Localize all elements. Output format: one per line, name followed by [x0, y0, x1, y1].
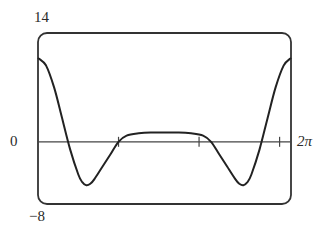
y-min-label: −8 — [29, 209, 45, 224]
y-max-label: 14 — [34, 10, 49, 25]
plot-area — [0, 0, 332, 236]
x-max-label: 2π — [297, 134, 312, 149]
y-zero-label: 0 — [10, 134, 18, 149]
plot-frame — [38, 33, 291, 204]
function-curve — [38, 58, 291, 185]
x-max-label-text: 2π — [297, 133, 312, 149]
